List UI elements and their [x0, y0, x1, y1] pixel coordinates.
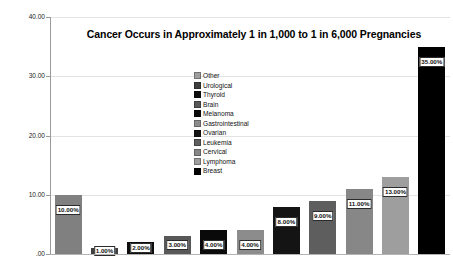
gridline: [51, 17, 450, 18]
legend-item[interactable]: Leukemia: [194, 138, 249, 148]
bar-value-label: 9.00%: [312, 211, 334, 221]
bar-value-label: 8.00%: [276, 217, 298, 227]
bar-value-label: 2.00%: [130, 243, 152, 253]
legend-item[interactable]: Cervical: [194, 147, 249, 157]
bar[interactable]: 4.00%: [237, 230, 264, 254]
y-axis-tick: [46, 76, 50, 77]
bar-value-label: 11.00%: [347, 199, 372, 209]
bar-value-label: 4.00%: [239, 240, 261, 250]
legend-swatch-icon: [194, 158, 201, 165]
chart-title: Cancer Occurs in Approximately 1 in 1,00…: [58, 28, 450, 40]
bar-value-label: 13.00%: [383, 187, 408, 197]
bar[interactable]: 10.00%: [55, 195, 82, 254]
legend-item-label: Gastrointestinal: [203, 119, 249, 129]
legend-swatch-icon: [194, 91, 201, 98]
y-axis-tick-label: 10.00: [3, 191, 45, 198]
legend-item-label: Other: [203, 71, 220, 81]
y-axis-tick-label: 30.00: [3, 72, 45, 79]
plot-area: 10.00%1.00%2.00%3.00%4.00%4.00%8.00%9.00…: [50, 17, 450, 255]
bar[interactable]: 3.00%: [164, 236, 191, 254]
legend-item-label: Cervical: [203, 147, 227, 157]
legend-item[interactable]: Urological: [194, 81, 249, 91]
bar-value-label: 35.00%: [419, 57, 444, 67]
bar[interactable]: 8.00%: [273, 207, 300, 254]
legend-swatch-icon: [194, 82, 201, 89]
y-axis-tick: [46, 136, 50, 137]
bar[interactable]: 9.00%: [309, 201, 336, 254]
legend-item-label: Leukemia: [203, 138, 232, 148]
legend-swatch-icon: [194, 149, 201, 156]
legend-swatch-icon: [194, 130, 201, 137]
y-axis-tick-label: 20.00: [3, 132, 45, 139]
bar-value-label: 4.00%: [203, 240, 225, 250]
y-axis-tick: [46, 17, 50, 18]
bar[interactable]: 2.00%: [127, 242, 154, 254]
legend-item-label: Thyroid: [203, 90, 225, 100]
bar[interactable]: 13.00%: [382, 177, 409, 254]
legend-swatch-icon: [194, 110, 201, 117]
legend-item[interactable]: Brain: [194, 100, 249, 110]
legend-item[interactable]: Breast: [194, 166, 249, 176]
legend-item-label: Melanoma: [203, 109, 234, 119]
legend-swatch-icon: [194, 139, 201, 146]
legend-item-label: Lymphoma: [203, 157, 235, 167]
legend-swatch-icon: [194, 120, 201, 127]
legend-item-label: Breast: [203, 166, 222, 176]
bar[interactable]: 35.00%: [418, 47, 445, 254]
legend-swatch-icon: [194, 72, 201, 79]
legend-item-label: Ovarian: [203, 128, 226, 138]
legend-item[interactable]: Lymphoma: [194, 157, 249, 167]
y-axis-tick-label: 40.00: [3, 13, 45, 20]
bar[interactable]: 11.00%: [346, 189, 373, 254]
bar[interactable]: 4.00%: [200, 230, 227, 254]
gridline: [51, 136, 450, 137]
legend-item[interactable]: Ovarian: [194, 128, 249, 138]
legend-swatch-icon: [194, 168, 201, 175]
legend-item[interactable]: Melanoma: [194, 109, 249, 119]
chart-page: Percent of Cancers Diagosed in Pregnancy…: [0, 0, 453, 274]
legend-item-label: Urological: [203, 81, 232, 91]
legend-item[interactable]: Thyroid: [194, 90, 249, 100]
y-axis-tick: [46, 195, 50, 196]
legend-swatch-icon: [194, 101, 201, 108]
chart-legend: OtherUrologicalThyroidBrainMelanomaGastr…: [194, 71, 249, 176]
legend-item-label: Brain: [203, 100, 218, 110]
y-axis-tick-label: .00: [3, 250, 45, 257]
gridline: [51, 76, 450, 77]
bar-value-label: 3.00%: [166, 240, 188, 250]
bar-value-label: 10.00%: [56, 205, 81, 215]
legend-item[interactable]: Other: [194, 71, 249, 81]
x-axis-line: [50, 254, 450, 255]
legend-item[interactable]: Gastrointestinal: [194, 119, 249, 129]
